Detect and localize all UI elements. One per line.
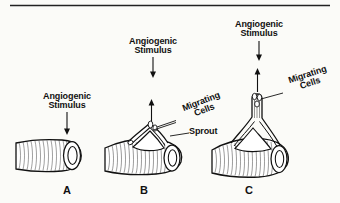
panel-b-stimulus-arrow xyxy=(150,57,156,78)
panel-c xyxy=(212,41,288,177)
panel-a-stimulus-label: Angiogenic Stimulus xyxy=(16,92,118,111)
panel-letter-b: B xyxy=(140,184,148,196)
panel-b-sprout-leader xyxy=(170,133,189,136)
panel-c-stimulus-label: Angiogenic Stimulus xyxy=(209,20,309,39)
panel-letter-a: A xyxy=(63,184,71,196)
panel-c-stimulus-arrow xyxy=(256,41,262,61)
panel-c-migrating-leader xyxy=(261,93,283,99)
panel-a xyxy=(16,112,81,171)
panel-b-sprout-arrow xyxy=(149,99,155,122)
panel-a-vessel xyxy=(16,140,81,172)
panel-b-sprout-label: Sprout xyxy=(189,127,233,136)
panel-letter-c: C xyxy=(245,184,253,196)
panel-b-vessel xyxy=(105,121,189,175)
panel-c-sprout-arrow xyxy=(255,68,261,92)
panel-b-migrating-leader xyxy=(154,121,177,131)
panel-a-stimulus-arrow xyxy=(64,112,70,135)
panel-b-stimulus-label: Angiogenic Stimulus xyxy=(103,37,203,56)
